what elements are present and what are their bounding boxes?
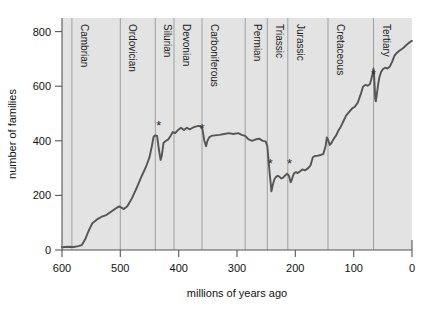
period-label-ordovician: Ordovician [127, 24, 138, 72]
y-tick-label-400: 400 [33, 135, 51, 147]
period-label-silurian: Silurian [162, 24, 173, 57]
x-tick-label-500: 500 [111, 262, 129, 274]
x-tick-label-100: 100 [345, 262, 363, 274]
x-tick-label-200: 200 [286, 262, 304, 274]
diversity-curve-chart: 0200400600800 6005004003002001000 Cambri… [0, 0, 441, 310]
x-axis-title: millions of years ago [187, 287, 287, 299]
x-tick-label-400: 400 [170, 262, 188, 274]
period-label-jurassic: Jurassic [295, 24, 306, 61]
period-label-devonian: Devonian [181, 24, 192, 66]
period-label-cambrian: Cambrian [79, 24, 90, 67]
y-tick-label-600: 600 [33, 80, 51, 92]
x-tick-label-600: 600 [53, 262, 71, 274]
period-label-tertiary: Tertiary [381, 24, 392, 57]
chart-figure: 0200400600800 6005004003002001000 Cambri… [0, 0, 441, 310]
extinction-marker-end-triassic: * [287, 156, 292, 171]
extinction-marker-end-cretaceous: * [371, 67, 376, 82]
period-label-permian: Permian [252, 24, 263, 61]
period-label-carboniferous: Carboniferous [209, 24, 220, 87]
extinction-marker-end-permian: * [268, 156, 273, 171]
y-tick-label-0: 0 [45, 244, 51, 256]
period-label-cretaceous: Cretaceous [335, 24, 346, 75]
y-axis-title: number of families [6, 89, 18, 179]
y-tick-label-200: 200 [33, 189, 51, 201]
y-tick-label-800: 800 [33, 26, 51, 38]
period-label-triassic: Triassic [274, 24, 285, 58]
extinction-marker-late-devonian: * [199, 121, 204, 136]
extinction-marker-end-ordovician: * [156, 118, 161, 133]
x-tick-label-300: 300 [228, 262, 246, 274]
x-tick-label-0: 0 [409, 262, 415, 274]
